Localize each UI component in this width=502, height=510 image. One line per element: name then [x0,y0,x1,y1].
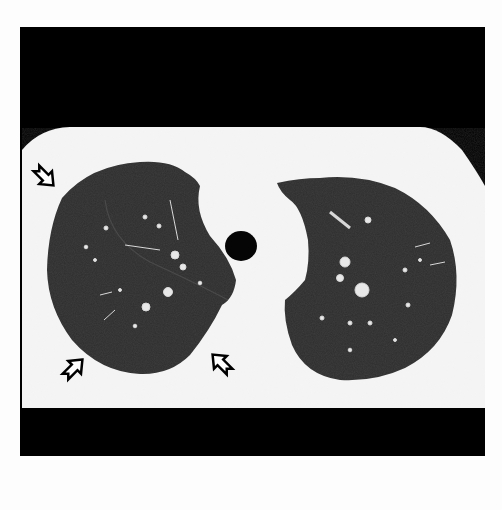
trachea [225,231,257,261]
ct-slice [0,0,502,510]
